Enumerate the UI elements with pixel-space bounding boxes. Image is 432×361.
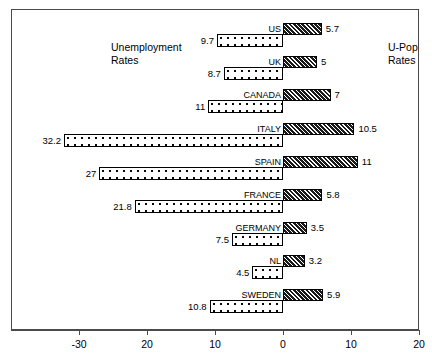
country-label-us: US — [268, 24, 281, 34]
bar-upop-canada — [283, 89, 331, 101]
country-label-germany: GERMANY — [235, 223, 281, 233]
left-axis-block-label: Unemployment Rates — [111, 41, 182, 67]
value-upop-germany: 3.5 — [311, 223, 324, 233]
value-upop-sweden: 5.9 — [327, 290, 340, 300]
x-tick-4 — [351, 330, 352, 335]
bar-unemployment-us — [217, 34, 283, 47]
value-unemployment-germany: 7.5 — [216, 235, 229, 245]
x-tick-5 — [419, 330, 420, 335]
country-label-italy: ITALY — [257, 124, 281, 134]
right-axis-block-label: U-Pop Rates — [388, 41, 418, 67]
bar-unemployment-uk — [224, 67, 283, 80]
bar-upop-sweden — [283, 289, 323, 301]
value-unemployment-canada: 11 — [195, 102, 205, 112]
bar-unemployment-spain — [99, 167, 283, 180]
country-label-uk: UK — [268, 57, 281, 67]
x-tick-0 — [79, 330, 80, 335]
x-tick-label-5: 20 — [413, 338, 425, 350]
x-tick-label-3: 0 — [280, 338, 286, 350]
value-upop-us: 5.7 — [326, 24, 339, 34]
value-unemployment-spain: 27 — [86, 169, 97, 179]
plot-area: Unemployment Rates U-Pop Rates 5.79.7US5… — [11, 9, 419, 330]
x-tick-1 — [147, 330, 148, 335]
bar-upop-germany — [283, 222, 307, 234]
bar-unemployment-germany — [232, 233, 283, 246]
value-upop-italy: 10.5 — [358, 124, 377, 134]
bar-upop-us — [283, 23, 322, 35]
value-upop-nl: 3.2 — [309, 256, 322, 266]
bar-upop-uk — [283, 56, 317, 68]
x-tick-2 — [215, 330, 216, 335]
x-tick-label-2: 10 — [209, 338, 221, 350]
value-unemployment-uk: 8.7 — [208, 69, 221, 79]
value-unemployment-us: 9.7 — [201, 36, 214, 46]
value-upop-spain: 11 — [362, 157, 372, 167]
bar-unemployment-sweden — [210, 300, 283, 313]
bar-unemployment-italy — [64, 134, 283, 147]
value-unemployment-italy: 32.2 — [43, 136, 62, 146]
x-tick-label-1: 20 — [141, 338, 153, 350]
bar-unemployment-france — [135, 200, 283, 213]
country-label-nl: NL — [269, 256, 281, 266]
value-upop-france: 5.8 — [326, 190, 339, 200]
value-unemployment-france: 21.8 — [113, 202, 132, 212]
country-label-spain: SPAIN — [255, 157, 281, 167]
x-tick-3 — [283, 330, 284, 335]
country-label-france: FRANCE — [244, 190, 281, 200]
country-label-sweden: SWEDEN — [241, 290, 281, 300]
country-label-canada: CANADA — [243, 90, 281, 100]
value-upop-uk: 5 — [321, 57, 326, 67]
bar-unemployment-canada — [208, 100, 283, 113]
x-tick-label-0: -30 — [71, 338, 86, 350]
bar-upop-spain — [283, 156, 358, 168]
bar-upop-italy — [283, 123, 354, 135]
value-unemployment-sweden: 10.8 — [188, 302, 207, 312]
value-upop-canada: 7 — [335, 90, 340, 100]
bar-unemployment-nl — [252, 266, 283, 279]
bar-upop-france — [283, 189, 322, 201]
x-tick-label-4: 10 — [345, 338, 357, 350]
chart-root: Unemployment Rates U-Pop Rates 5.79.7US5… — [0, 0, 432, 361]
value-unemployment-nl: 4.5 — [236, 268, 249, 278]
bar-upop-nl — [283, 255, 305, 267]
